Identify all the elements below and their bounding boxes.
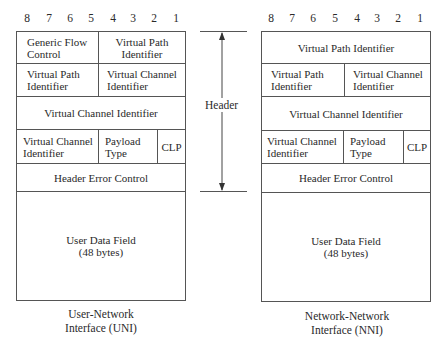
caption-line: Interface (NNI) [257, 323, 437, 337]
bit-label: 2 [391, 12, 405, 24]
uni-generic-flow-control: Generic Flow Control [17, 32, 98, 63]
header-label: Header [205, 98, 238, 112]
nni-vpi-low: Virtual Path Identifier [262, 64, 344, 96]
bit-label: 3 [370, 12, 384, 24]
bit-label: 8 [264, 12, 278, 24]
uni-user-data-field: User Data Field (48 bytes) [17, 192, 185, 300]
nni-vci-mid: Virtual Channel Identifier [262, 97, 430, 130]
nni-vpi-high: Virtual Path Identifier [262, 32, 430, 63]
nni-bit-labels: 8 7 6 5 4 3 2 1 [0, 12, 444, 26]
uni-vci-high: Virtual Channel Identifier [99, 64, 185, 96]
data-field-size: (48 bytes) [79, 246, 123, 258]
caption-line: Interface (UNI) [11, 321, 191, 335]
uni-header-error-control: Header Error Control [17, 164, 185, 191]
uni-vpi-high: Virtual Path Identifier [99, 32, 185, 63]
uni-vci-low: Virtual Channel Identifier [17, 130, 98, 163]
data-field-label: User Data Field [311, 235, 381, 247]
data-field-label: User Data Field [66, 234, 136, 246]
bit-label: 4 [350, 12, 364, 24]
nni-vci-high: Virtual Channel Identifier [345, 64, 430, 96]
uni-clp: CLP [158, 130, 185, 163]
nni-vci-low: Virtual Channel Identifier [262, 131, 343, 163]
uni-vpi-low: Virtual Path Identifier [17, 64, 98, 96]
caption-line: Network-Network [257, 309, 437, 323]
bit-label: 5 [328, 12, 342, 24]
nni-clp: CLP [404, 131, 430, 163]
bit-label: 7 [285, 12, 299, 24]
nni-header-error-control: Header Error Control [262, 164, 430, 192]
caption-line: User-Network [11, 307, 191, 321]
bit-label: 6 [306, 12, 320, 24]
nni-user-data-field: User Data Field (48 bytes) [262, 193, 430, 301]
nni-caption: Network-Network Interface (NNI) [257, 309, 437, 337]
bit-label: 1 [413, 12, 427, 24]
uni-payload-type: Payload Type [99, 130, 157, 163]
uni-vci-mid: Virtual Channel Identifier [17, 97, 185, 129]
uni-caption: User-Network Interface (UNI) [11, 307, 191, 335]
data-field-size: (48 bytes) [324, 247, 368, 259]
nni-payload-type: Payload Type [344, 131, 403, 163]
